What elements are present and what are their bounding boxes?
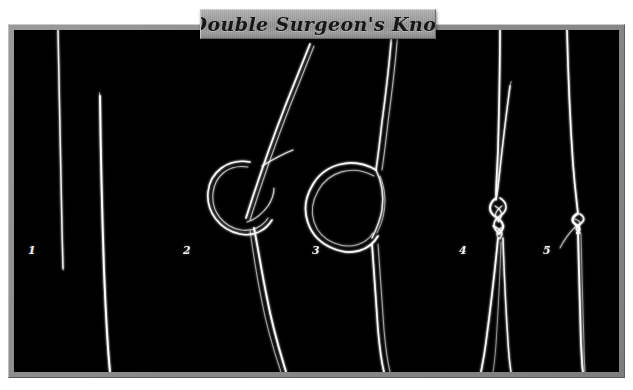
knot-illustration-figure: 1 2 3 4 5 Double Surgeon's Knot bbox=[0, 0, 633, 390]
step-number-1: 1 bbox=[28, 245, 36, 256]
step-1-drawing bbox=[58, 30, 110, 372]
knot-photo-plate: 1 2 3 4 5 bbox=[14, 30, 619, 372]
step-5-drawing bbox=[560, 30, 585, 372]
step-number-4: 4 bbox=[459, 245, 467, 256]
step-number-2: 2 bbox=[183, 245, 191, 256]
step-number-3: 3 bbox=[312, 245, 320, 256]
title-plaque: Double Surgeon's Knot bbox=[200, 9, 436, 39]
page-title: Double Surgeon's Knot bbox=[200, 13, 436, 35]
step-4-drawing bbox=[481, 30, 511, 372]
step-2-drawing bbox=[208, 44, 314, 372]
step-3-drawing bbox=[306, 30, 398, 372]
knot-diagram-svg bbox=[14, 30, 619, 372]
step-number-5: 5 bbox=[543, 245, 551, 256]
